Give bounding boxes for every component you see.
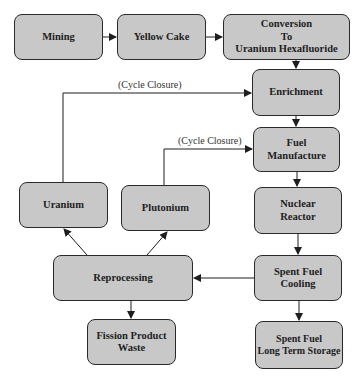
node-fuel-manufacture: Fuel Manufacture xyxy=(253,127,340,172)
arrow-reprocessing-to-plutonium xyxy=(147,232,167,255)
node-uranium: Uranium xyxy=(19,182,108,228)
node-mining: Mining xyxy=(14,14,103,60)
cycle-closure-label-plutonium: (Cycle Closure) xyxy=(178,135,242,146)
node-conversion: Conversion To Uranium Hexafluoride xyxy=(223,14,350,60)
node-nuclear-reactor: Nuclear Reactor xyxy=(254,187,342,234)
node-reprocessing: Reprocessing xyxy=(53,255,193,301)
node-spent-fuel-cooling: Spent Fuel Cooling xyxy=(254,255,342,301)
fuel-cycle-diagram: (Cycle Closure) (Cycle Closure) Mining Y… xyxy=(0,0,361,380)
node-yellow-cake: Yellow Cake xyxy=(117,14,206,60)
arrow-reprocessing-to-uranium xyxy=(64,229,87,255)
node-fission-product-waste: Fission Product Waste xyxy=(87,319,176,365)
cycle-closure-label-uranium: (Cycle Closure) xyxy=(118,79,182,90)
node-plutonium: Plutonium xyxy=(121,185,210,231)
node-enrichment: Enrichment xyxy=(252,69,340,116)
arrow-plutonium-cycle-closure xyxy=(164,149,252,185)
node-long-term-storage: Spent Fuel Long Term Storage xyxy=(255,321,343,369)
